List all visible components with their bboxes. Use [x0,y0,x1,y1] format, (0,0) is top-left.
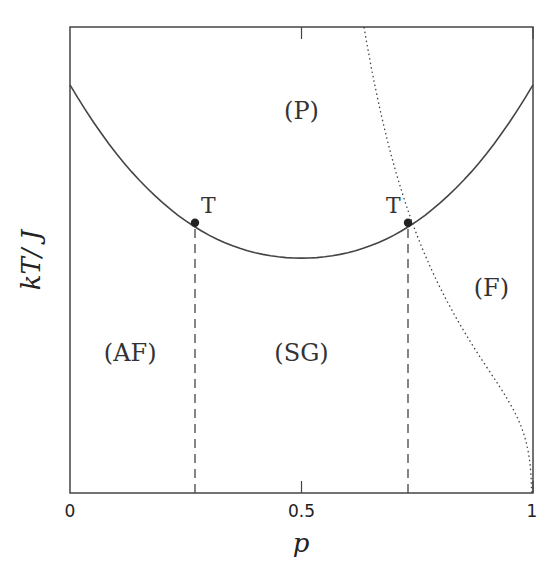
x-axis-label: p [293,528,310,558]
region-label: (AF) [104,339,157,367]
x-tick-label: 0.5 [288,501,315,521]
tricritical-point-marker [404,219,412,227]
x-tick-label: 1 [527,501,538,521]
x-tick-label: 0 [65,501,76,521]
region-label: (SG) [274,339,328,367]
region-label: (P) [284,97,319,125]
phase-diagram-chart: TT (P)(AF)(SG)(F) 00.51 p kT/ J [0,0,557,572]
y-axis-label: kT/ J [16,228,46,290]
tricritical-point-marker [191,219,199,227]
points-layer: TT [191,193,412,227]
point-label-T: T [201,193,216,218]
region-label: (F) [474,274,509,302]
point-label-T: T [386,193,401,218]
annotations-layer: (P)(AF)(SG)(F) [104,97,509,367]
nishimori-line-line [364,27,532,493]
